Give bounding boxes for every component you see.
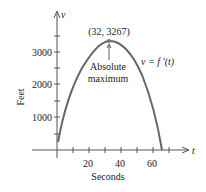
velocity-chart: (32, 3267) Absolute maximum v = f ′(t) 2… [0, 0, 206, 192]
peak-label: (32, 3267) [88, 26, 130, 38]
t-symbol: t [192, 145, 195, 156]
y-tick-1000: 1000 [32, 112, 52, 123]
x-axis-label: Seconds [91, 171, 124, 182]
x-tick-40: 40 [115, 158, 125, 169]
x-tick-60: 60 [147, 158, 157, 169]
v-symbol: v [61, 9, 66, 20]
y-tick-2000: 2000 [32, 79, 52, 90]
y-axis-label: Feet [15, 88, 26, 105]
y-tick-3000: 3000 [32, 47, 52, 58]
abs-label-1: Absolute [90, 61, 127, 72]
x-tick-20: 20 [83, 158, 93, 169]
max-point [107, 39, 111, 43]
abs-label-2: maximum [88, 73, 129, 84]
curve-label: v = f ′(t) [141, 56, 175, 68]
